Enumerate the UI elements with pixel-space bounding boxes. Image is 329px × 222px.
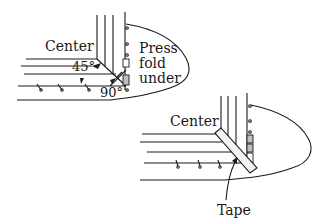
mitered-corner-diagram: Center 45° 90° Press fold under [0, 0, 329, 222]
bottom-center-label: Center [170, 113, 219, 129]
top-center-label: Center [45, 38, 94, 54]
top-vertical-stitches [123, 27, 129, 92]
bottom-panel: Center Tape [140, 93, 311, 218]
bottom-stitch-marks [176, 160, 221, 168]
angle-90-label: 90° [100, 85, 123, 100]
press-fold-under-line-3: under [139, 70, 181, 86]
press-fold-under-line-1: Press [139, 40, 178, 56]
angle-45-label: 45° [72, 59, 95, 74]
tape-leader-line [226, 162, 235, 200]
arrow-down-icon [80, 78, 84, 84]
top-panel: Center 45° 90° Press fold under [17, 12, 189, 100]
bottom-vertical-stitches [247, 105, 253, 163]
top-stitch-marks [37, 84, 90, 91]
tape-label: Tape [217, 202, 251, 218]
press-fold-under-line-2: fold [139, 55, 166, 71]
